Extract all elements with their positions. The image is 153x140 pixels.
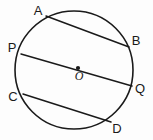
label-q: Q	[135, 81, 145, 96]
label-c: C	[8, 89, 17, 104]
label-b: B	[132, 33, 141, 48]
label-center-o: O	[75, 69, 84, 83]
circle-diagram-svg: O A B P Q C D	[0, 0, 153, 140]
label-d: D	[112, 121, 121, 136]
label-a: A	[34, 3, 43, 18]
label-p: P	[8, 40, 17, 55]
geometry-figure-container: O A B P Q C D	[0, 0, 153, 140]
